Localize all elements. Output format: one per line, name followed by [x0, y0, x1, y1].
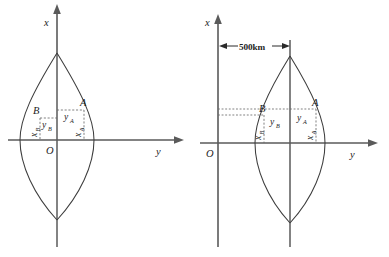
- left-y-axis-label: y: [155, 146, 161, 157]
- svg-text:x: x: [29, 132, 39, 138]
- right-diagram: 500km x y O A B y A x A: [200, 14, 378, 247]
- svg-text:y: y: [269, 117, 275, 127]
- right-point-a-guides: [218, 109, 316, 143]
- right-point-b-label: B: [259, 103, 266, 114]
- left-xa-label: x A: [73, 128, 85, 138]
- svg-text:x: x: [253, 135, 263, 141]
- svg-text:A: A: [78, 128, 85, 133]
- svg-text:y: y: [41, 120, 47, 130]
- left-point-a-label: A: [79, 97, 87, 108]
- left-x-axis-label: x: [43, 17, 49, 28]
- right-yb-label: y B: [269, 117, 280, 129]
- right-xa-label: x A: [305, 131, 317, 141]
- left-origin-label: O: [46, 145, 54, 156]
- left-yb-label: y B: [41, 120, 52, 132]
- svg-text:x: x: [73, 132, 83, 138]
- right-x-axis-label: x: [204, 17, 210, 28]
- right-point-a-label: A: [311, 97, 319, 108]
- left-diagram: x y O A B y A x A y B x B: [8, 4, 184, 247]
- left-point-b-label: B: [33, 105, 40, 116]
- left-x-axis: [53, 4, 61, 53]
- right-origin-label: O: [206, 148, 214, 159]
- right-x-axis: [214, 14, 222, 247]
- offset-dimension-label: 500km: [239, 42, 265, 52]
- svg-text:y: y: [63, 112, 69, 122]
- right-y-axis: [200, 139, 378, 147]
- svg-text:B: B: [48, 125, 52, 132]
- svg-text:B: B: [276, 122, 280, 129]
- left-xb-label: x B: [29, 128, 41, 138]
- right-xb-label: x B: [253, 131, 265, 141]
- left-ya-label: y A: [63, 112, 74, 124]
- svg-text:A: A: [310, 131, 317, 136]
- right-y-axis-label: y: [349, 149, 355, 160]
- figure-canvas: x y O A B y A x A y B x B: [0, 0, 389, 257]
- svg-text:A: A: [302, 118, 307, 125]
- svg-text:x: x: [305, 135, 315, 141]
- svg-text:B: B: [34, 128, 41, 132]
- offset-dimension: 500km: [219, 42, 290, 52]
- svg-text:B: B: [258, 131, 265, 135]
- svg-text:A: A: [69, 117, 74, 124]
- svg-text:y: y: [296, 113, 302, 123]
- right-ya-label: y A: [296, 113, 307, 125]
